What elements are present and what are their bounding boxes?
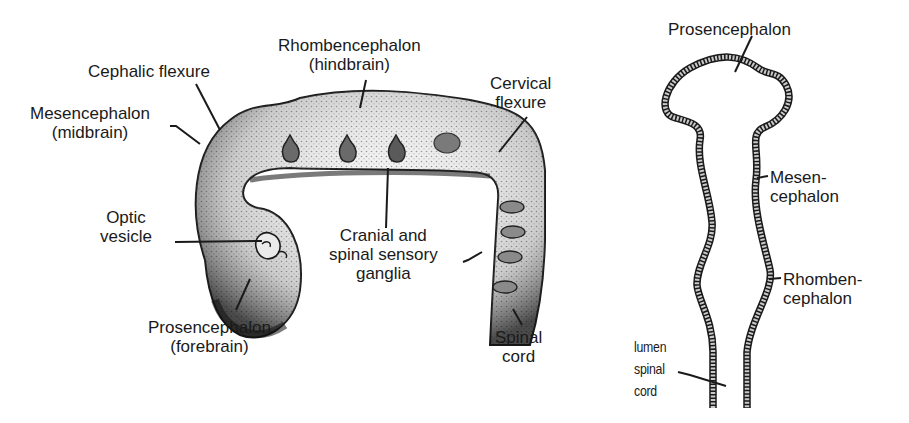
label-cervical-flexure: Cervical flexure <box>490 74 551 112</box>
label-optic-vesicle: Optic vesicle <box>100 208 152 246</box>
neural-tube-section <box>665 36 789 408</box>
label-prosencephalon-left: Prosencephalon (forebrain) <box>148 318 271 356</box>
label-cephalic-flexure: Cephalic flexure <box>88 62 210 81</box>
label-cranial-spinal-ganglia: Cranial and spinal sensory ganglia <box>329 226 438 283</box>
label-spinal-cord: Spinal cord <box>495 328 542 366</box>
leader-lines-right <box>678 36 781 386</box>
embryonic-brain-illustration <box>170 80 545 345</box>
label-rhombencephalon-right: Rhomben- cephalon <box>783 270 862 308</box>
label-lumen-spinal-cord: lumen spinal cord <box>634 336 666 402</box>
label-rhombencephalon: Rhombencephalon (hindbrain) <box>278 36 421 74</box>
label-mesencephalon-right: Mesen- cephalon <box>770 168 839 206</box>
neural-tube-wall-outer <box>665 57 789 408</box>
label-prosencephalon-right: Prosencephalon <box>668 20 791 39</box>
label-mesencephalon: Mesencephalon (midbrain) <box>30 104 150 142</box>
hindbrain-underside-shadow <box>250 173 490 180</box>
